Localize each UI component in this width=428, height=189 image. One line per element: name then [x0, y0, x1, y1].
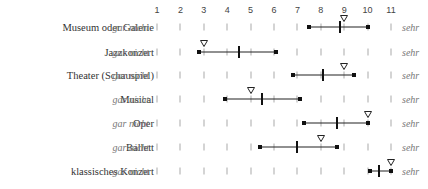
grid-tick: [157, 96, 158, 103]
mean-marker: [336, 117, 338, 129]
grid-tick: [180, 120, 181, 127]
range-endpoint: [307, 25, 311, 29]
tick-label: 7: [295, 5, 300, 15]
range-endpoint: [291, 73, 295, 77]
range-endpoint: [258, 145, 262, 149]
low-anchor-label: gar nicht: [113, 166, 149, 177]
grid-tick: [203, 168, 204, 175]
grid-tick: [344, 49, 345, 56]
grid-tick: [297, 120, 298, 127]
tick-label: 3: [201, 5, 206, 15]
low-anchor-label: gar nicht: [113, 22, 149, 33]
high-anchor-label: sehr: [402, 94, 419, 105]
triangle-marker-icon: [340, 56, 348, 74]
grid-tick: [320, 168, 321, 175]
low-anchor-label: gar nicht: [113, 142, 149, 153]
grid-tick: [297, 24, 298, 31]
grid-tick: [367, 144, 368, 151]
grid-tick: [297, 49, 298, 56]
low-anchor-label: gar nicht: [113, 118, 149, 129]
triangle-marker-icon: [200, 33, 208, 51]
grid-tick: [274, 72, 275, 79]
grid-tick: [227, 72, 228, 79]
high-anchor-label: sehr: [402, 70, 419, 81]
tick-label: 11: [386, 5, 395, 15]
triangle-marker-icon: [340, 8, 348, 26]
grid-tick: [250, 24, 251, 31]
range-endpoint: [335, 145, 339, 149]
grid-tick: [180, 49, 181, 56]
range-endpoint: [352, 73, 356, 77]
range-endpoint: [223, 97, 227, 101]
grid-tick: [180, 72, 181, 79]
grid-tick: [367, 49, 368, 56]
grid-tick: [157, 144, 158, 151]
tick-label: 6: [271, 5, 276, 15]
grid-tick: [391, 24, 392, 31]
grid-tick: [391, 72, 392, 79]
range-endpoint: [368, 169, 372, 173]
grid-tick: [203, 144, 204, 151]
tick-label: 5: [248, 5, 253, 15]
range-endpoint: [366, 25, 370, 29]
range-endpoint: [298, 97, 302, 101]
grid-tick: [250, 72, 251, 79]
tick-label: 10: [363, 5, 373, 15]
range-endpoint: [302, 121, 306, 125]
mean-marker: [261, 93, 263, 105]
triangle-marker-icon: [247, 80, 255, 98]
mean-marker: [378, 165, 380, 177]
high-anchor-label: sehr: [402, 166, 419, 177]
grid-tick: [203, 24, 204, 31]
grid-tick: [203, 120, 204, 127]
grid-tick: [367, 72, 368, 79]
triangle-marker-icon: [387, 152, 395, 170]
high-anchor-label: sehr: [402, 22, 419, 33]
range-line: [370, 171, 391, 172]
high-anchor-label: sehr: [402, 47, 419, 58]
tick-label: 4: [225, 5, 230, 15]
grid-tick: [180, 96, 181, 103]
grid-tick: [227, 24, 228, 31]
grid-tick: [391, 144, 392, 151]
triangle-marker-icon: [364, 104, 372, 122]
grid-tick: [227, 144, 228, 151]
grid-tick: [344, 168, 345, 175]
mean-marker: [322, 69, 324, 81]
low-anchor-label: gar nicht: [113, 94, 149, 105]
range-line: [260, 147, 337, 148]
mean-marker: [238, 46, 240, 58]
grid-tick: [250, 120, 251, 127]
grid-tick: [157, 168, 158, 175]
grid-tick: [320, 49, 321, 56]
grid-tick: [274, 120, 275, 127]
high-anchor-label: sehr: [402, 142, 419, 153]
grid-tick: [180, 24, 181, 31]
low-anchor-label: gar nicht: [113, 47, 149, 58]
tick-label: 1: [154, 5, 159, 15]
grid-tick: [344, 96, 345, 103]
grid-tick: [227, 168, 228, 175]
grid-tick: [320, 96, 321, 103]
grid-tick: [157, 24, 158, 31]
grid-tick: [227, 120, 228, 127]
grid-tick: [157, 72, 158, 79]
grid-tick: [250, 168, 251, 175]
grid-tick: [391, 96, 392, 103]
grid-tick: [180, 168, 181, 175]
grid-tick: [297, 168, 298, 175]
tick-label: 8: [318, 5, 323, 15]
grid-tick: [391, 120, 392, 127]
grid-tick: [344, 144, 345, 151]
grid-tick: [274, 24, 275, 31]
tick-label: 2: [178, 5, 183, 15]
grid-tick: [157, 49, 158, 56]
triangle-marker-icon: [317, 128, 325, 146]
range-endpoint: [274, 50, 278, 54]
grid-tick: [180, 144, 181, 151]
grid-tick: [250, 144, 251, 151]
grid-tick: [367, 96, 368, 103]
low-anchor-label: gar nicht: [113, 70, 149, 81]
high-anchor-label: sehr: [402, 118, 419, 129]
grid-tick: [203, 96, 204, 103]
